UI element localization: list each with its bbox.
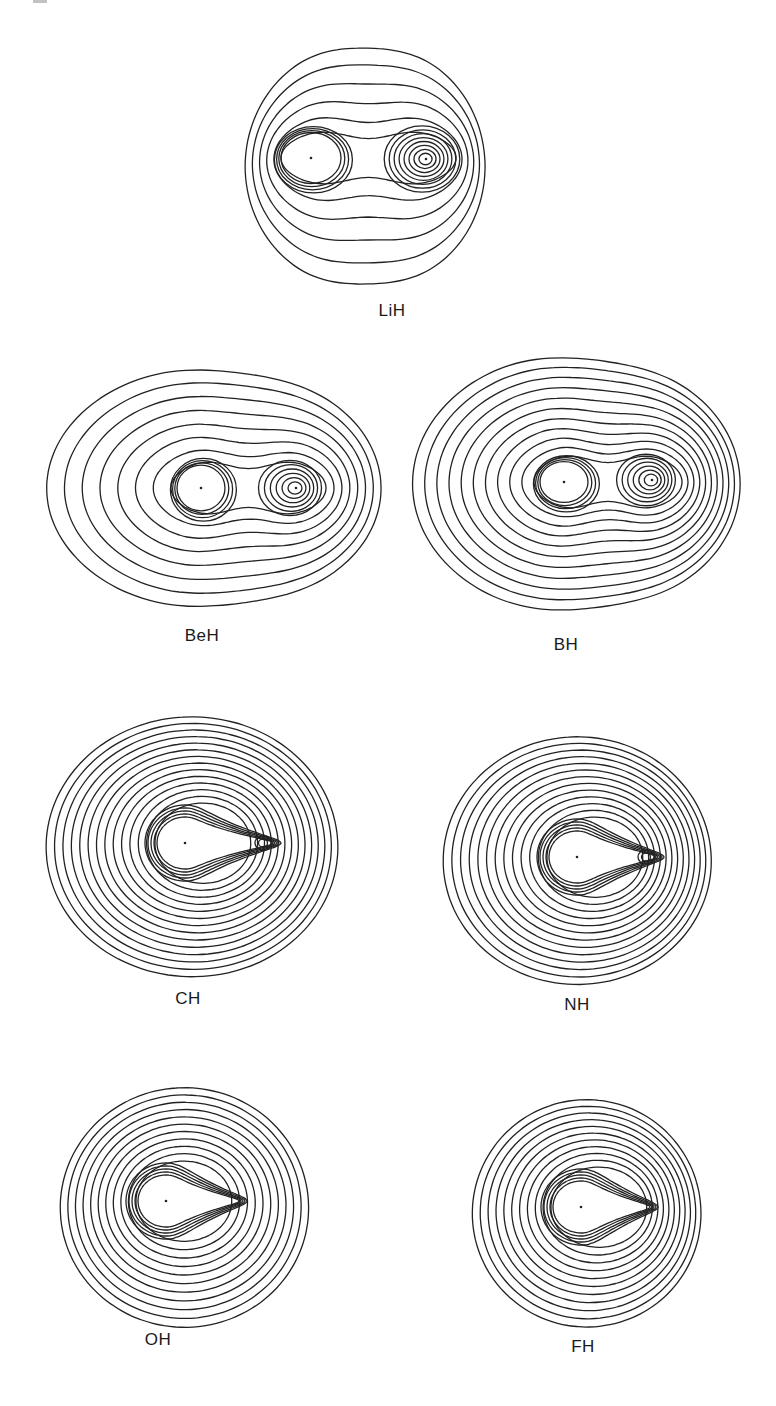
label-lih: LiH [378,301,405,321]
core-contour [138,1175,239,1227]
core-contour [170,458,236,521]
hydrogen-nucleus-dot [295,487,298,490]
density-contour [488,1113,690,1311]
density-contour [136,437,342,538]
density-contour [63,730,325,962]
density-contour [252,65,479,263]
density-contour [75,1102,293,1309]
heavy-nucleus-dot [165,1200,168,1203]
density-contour [68,1095,301,1318]
core-contour [126,1163,247,1239]
density-contour [461,398,717,567]
core-contour [533,456,599,512]
heavy-nucleus-dot [184,842,187,845]
density-contour [527,1147,663,1271]
label-nh: NH [564,995,590,1015]
core-contour [549,831,656,883]
heavy-nucleus-dot [200,487,203,490]
contour-map-bh [413,358,741,610]
density-contour [452,743,706,977]
label-oh: OH [145,1330,172,1350]
density-contour [47,370,381,606]
density-contour [82,396,365,579]
contour-map-beh [47,370,381,606]
heavy-nucleus-dot [580,1206,583,1209]
contour-map-lih [245,48,485,284]
density-contour [504,783,672,933]
heavy-nucleus-dot [310,157,313,160]
core-contour [154,814,275,872]
heavy-nucleus-dot [576,856,579,859]
heavy-nucleus-dot [563,481,566,484]
label-fh: FH [571,1337,595,1357]
label-ch: CH [175,989,201,1009]
density-contour [267,102,468,220]
contour-map-ch [46,717,338,977]
density-contour [538,810,648,904]
contour-map-nh [443,737,711,985]
density-contour [153,450,334,525]
label-beh: BeH [185,626,220,646]
density-contour [105,763,292,926]
core-contour [173,461,233,518]
contour-map-oh [60,1088,308,1328]
hydrogen-contour [404,142,444,177]
density-contour [46,717,338,977]
core-contour [553,1181,650,1233]
contour-map-fh [472,1100,701,1327]
core-contour [550,1178,652,1236]
density-contour [461,750,701,970]
density-contour [118,424,350,551]
density-contour [171,462,326,514]
density-contour [437,377,729,589]
density-contour [534,456,682,508]
hydrogen-nucleus-dot [651,479,654,482]
hydrogen-nucleus-dot [425,158,428,161]
label-bh: BH [554,635,579,655]
core-contour [277,129,349,190]
hydrogen-contour [259,839,268,847]
density-contour [521,797,660,919]
density-contour [64,383,373,593]
core-contour [536,458,596,509]
density-contour [498,429,700,536]
contour-figure [0,0,776,1406]
